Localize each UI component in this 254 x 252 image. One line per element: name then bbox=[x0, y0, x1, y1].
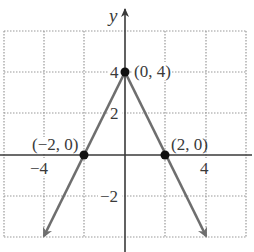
point-neg2-0 bbox=[80, 151, 89, 160]
y-tick-4: 4 bbox=[110, 63, 119, 82]
y-tick-neg2: −2 bbox=[100, 187, 118, 206]
point-label-2-0: (2, 0) bbox=[171, 135, 208, 154]
point-label-neg2-0: (−2, 0) bbox=[32, 135, 78, 154]
y-axis-label: y bbox=[107, 5, 118, 26]
coordinate-graph: y 4 2 −2 −4 4 (−2, 0) (0, 4) (2, 0) bbox=[0, 0, 254, 252]
y-tick-2: 2 bbox=[110, 104, 119, 123]
x-tick-4: 4 bbox=[200, 159, 209, 178]
point-2-0 bbox=[161, 151, 170, 160]
point-label-0-4: (0, 4) bbox=[134, 62, 171, 81]
point-0-4 bbox=[121, 68, 130, 77]
x-tick-neg4: −4 bbox=[30, 159, 49, 178]
